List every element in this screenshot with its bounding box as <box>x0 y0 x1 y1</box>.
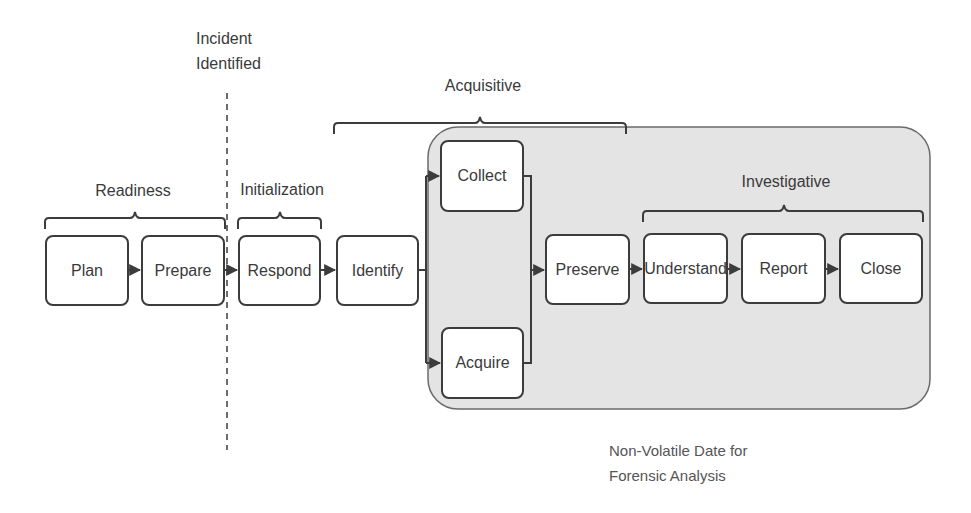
incident-label-line1: Incident <box>196 26 261 51</box>
split-connector <box>419 176 426 363</box>
acquisitive-label: Acquisitive <box>445 77 521 95</box>
container-caption: Non-Volatile Date for Forensic Analysis <box>609 438 747 488</box>
node-report: Report <box>741 233 826 304</box>
node-understand: Understand <box>643 233 728 304</box>
node-identify: Identify <box>336 235 419 306</box>
readiness-brace <box>45 212 225 229</box>
caption-line1: Non-Volatile Date for <box>609 438 747 463</box>
caption-line2: Forensic Analysis <box>609 463 747 488</box>
readiness-label: Readiness <box>95 182 171 200</box>
node-respond: Respond <box>238 235 321 306</box>
initialization-label: Initialization <box>240 181 324 199</box>
incident-identified-label: Incident Identified <box>196 26 261 76</box>
node-close: Close <box>839 233 923 304</box>
node-acquire: Acquire <box>441 327 524 399</box>
node-collect: Collect <box>440 140 524 212</box>
node-preserve: Preserve <box>545 234 630 305</box>
node-prepare: Prepare <box>141 235 225 306</box>
investigative-label: Investigative <box>742 173 831 191</box>
incident-label-line2: Identified <box>196 51 261 76</box>
node-plan: Plan <box>45 235 129 306</box>
initialization-brace <box>238 212 321 229</box>
